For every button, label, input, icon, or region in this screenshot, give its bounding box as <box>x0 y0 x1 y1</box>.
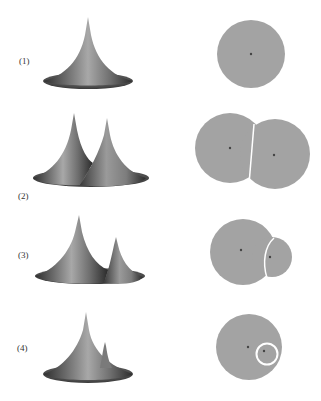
surface-2 <box>33 113 149 187</box>
voronoi-diagram-1 <box>217 20 285 88</box>
surface-4 <box>43 312 133 383</box>
voronoi-diagram-2 <box>195 113 310 189</box>
figure-canvas <box>0 0 321 401</box>
voronoi-diagram-3 <box>210 219 292 285</box>
voronoi-diagram-4 <box>216 314 282 380</box>
surface-1 <box>43 17 133 89</box>
surface-3 <box>35 215 145 284</box>
